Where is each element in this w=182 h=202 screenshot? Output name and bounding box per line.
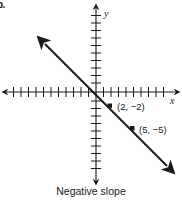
data-point-marker [108,104,113,109]
negative-slope-figure: b. [0,0,182,202]
y-axis-label: y [103,8,109,19]
point-label-1: (2, −2) [117,101,145,112]
line-series [45,44,167,166]
data-point-marker [130,126,135,131]
x-axis-label: x [169,95,175,106]
coordinate-plane: x [0,0,182,186]
point-label-2: (5, −5) [139,124,167,135]
figure-caption: Negative slope [0,185,182,197]
